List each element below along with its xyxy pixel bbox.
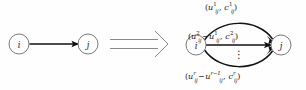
comma-bot: , bbox=[223, 72, 225, 81]
u-top-sub: ij bbox=[215, 8, 218, 14]
u-mid-b-sub: ij bbox=[216, 37, 219, 43]
u-bot-b-sup: r−1 bbox=[210, 70, 220, 76]
right-graph-group: i j bbox=[186, 23, 291, 66]
diagram-canvas: i j i j bbox=[0, 0, 306, 90]
rparen-mid: ) bbox=[235, 32, 238, 41]
minus-bot: − bbox=[198, 72, 205, 81]
left-graph-group: i j bbox=[9, 34, 98, 54]
implies-arrowhead bbox=[155, 31, 168, 57]
arc-top-label: (u1ij, c1ij) bbox=[205, 4, 237, 12]
c-top-sup: 1 bbox=[229, 1, 232, 7]
comma-mid: , bbox=[220, 32, 222, 41]
c-mid-sup: 2 bbox=[230, 30, 233, 36]
u-mid-a-sub: ij bbox=[198, 37, 201, 43]
left-node-i-label: i bbox=[18, 40, 21, 50]
u-mid-b-sup: 1 bbox=[214, 30, 217, 36]
comma-top: , bbox=[219, 3, 221, 12]
arc-middle-label: (u2ij−u1ij, c2ij) bbox=[188, 33, 238, 41]
implies-arrow-group bbox=[110, 31, 168, 57]
rparen-top: ) bbox=[234, 3, 237, 12]
minus-mid: − bbox=[202, 32, 209, 41]
arc-expansion-figure: i j i j bbox=[0, 0, 306, 90]
rparen-bot: ) bbox=[237, 72, 240, 81]
u-top-sup: 1 bbox=[213, 1, 216, 7]
vertical-ellipsis: ⋮ bbox=[234, 50, 244, 60]
arc-bottom-label: (urij−ur−1ij, crij) bbox=[185, 73, 240, 81]
u-mid-a-sup: 2 bbox=[196, 30, 199, 36]
u-bot-a-sup: r bbox=[193, 70, 195, 76]
